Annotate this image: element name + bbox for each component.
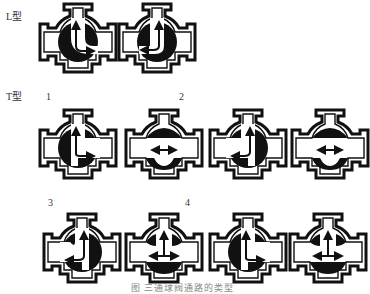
valve-t-type-3a <box>42 212 122 284</box>
l-type-label: L型 <box>6 12 22 22</box>
figure-caption: 图 三通球阀通路的类型 <box>0 281 365 294</box>
valve-t-type-2b <box>290 108 370 180</box>
valve-t-type-2a <box>208 108 288 180</box>
valve-l-type-1 <box>38 2 118 74</box>
valve-t-type-1b <box>124 108 204 180</box>
valve-t-type-4b <box>288 212 368 284</box>
valve-t-type-3b <box>124 212 204 284</box>
group-number-1: 1 <box>46 92 51 102</box>
valve-t-type-4a <box>208 212 288 284</box>
group-number-4: 4 <box>185 198 190 208</box>
valve-t-type-1a <box>38 108 118 180</box>
group-number-3: 3 <box>48 198 53 208</box>
group-number-2: 2 <box>179 92 184 102</box>
valve-l-type-2 <box>117 2 197 74</box>
t-type-label: T型 <box>6 92 22 102</box>
